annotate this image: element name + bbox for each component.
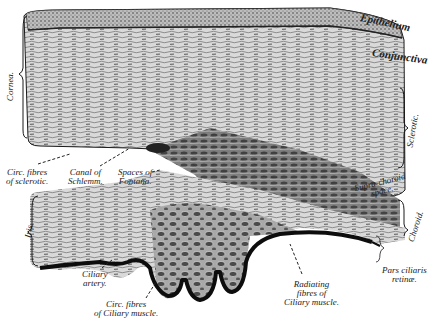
label-ciliary-artery: Ciliary artery. (82, 270, 108, 288)
label-cornea: Cornea. (6, 72, 15, 101)
label-pars-ciliaris-retinae: Pars ciliaris retinæ. (382, 266, 427, 284)
leader-canal-schlemm (100, 148, 130, 166)
label-line: retinæ. (382, 275, 427, 284)
label-circ-fibres-sclerotic: Circ. fibres of sclerotic. (6, 168, 48, 186)
label-radiating-fibres: Radiating fibres of Ciliary muscle. (284, 280, 339, 307)
label-line: of sclerotic. (6, 177, 48, 186)
eye-section-illustration (0, 0, 434, 324)
canal-of-schlemm (146, 143, 170, 153)
anatomical-diagram: Epithelium Conjunctiva Cornea. Sclerotic… (0, 0, 434, 324)
label-line: of Ciliary muscle. (94, 309, 158, 318)
label-circ-fibres-ciliary-muscle: Circ. fibres of Ciliary muscle. (94, 300, 158, 318)
label-line: Schlemm. (68, 177, 103, 186)
label-line: Fontana. (118, 177, 152, 186)
label-line: artery. (82, 279, 108, 288)
leader-radiating (290, 244, 302, 274)
label-canal-of-schlemm: Canal of Schlemm. (68, 168, 103, 186)
leader-circ-sclerotic (38, 154, 70, 164)
label-spaces-of-fontana: Spaces of Fontana. (118, 168, 152, 186)
label-line: Ciliary muscle. (284, 298, 339, 307)
leader-circ-ciliary (146, 282, 156, 298)
